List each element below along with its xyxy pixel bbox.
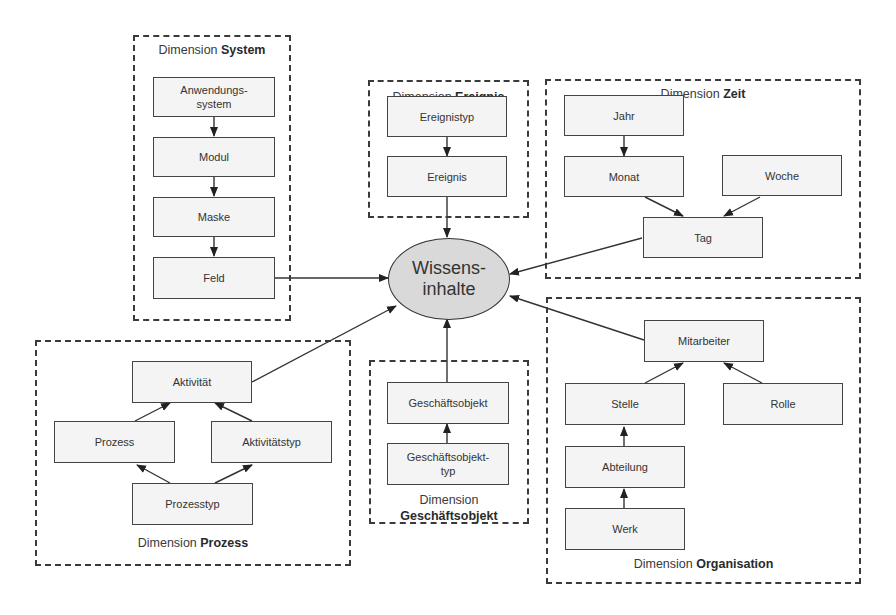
node-prozesstyp: Prozesstyp (132, 483, 253, 525)
node-geschaeftsobjekttyp: Geschäftsobjekt- typ (387, 443, 509, 485)
node-prozess: Prozess (54, 421, 175, 463)
node-jahr: Jahr (564, 95, 684, 136)
center-wissensinhalte: Wissens- inhalte (388, 238, 510, 320)
node-ereignistyp: Ereignistyp (387, 96, 507, 137)
node-geschaeftsobjekt: Geschäftsobjekt (387, 382, 509, 424)
node-rolle: Rolle (723, 383, 843, 425)
node-maske: Maske (153, 197, 275, 237)
node-aktivitaet: Aktivität (132, 361, 252, 403)
node-mitarbeiter: Mitarbeiter (644, 320, 764, 362)
dimension-prozess-title: Dimension Prozess (37, 536, 349, 550)
node-ereignis: Ereignis (387, 156, 507, 197)
dimension-system-title: Dimension System (135, 43, 289, 57)
dimension-geschaeftsobjekt-title: Dimension Geschäftsobjekt (371, 492, 527, 524)
node-feld: Feld (153, 257, 275, 299)
node-monat: Monat (564, 156, 684, 197)
node-woche: Woche (722, 155, 842, 196)
node-anwendungssystem: Anwendungs- system (153, 77, 275, 117)
dimension-organisation-title: Dimension Organisation (548, 557, 859, 571)
node-aktivitaetstyp: Aktivitätstyp (211, 421, 332, 463)
node-werk: Werk (565, 508, 685, 550)
node-modul: Modul (153, 137, 275, 177)
node-abteilung: Abteilung (565, 446, 685, 488)
node-tag: Tag (643, 217, 763, 258)
node-stelle: Stelle (565, 383, 685, 425)
